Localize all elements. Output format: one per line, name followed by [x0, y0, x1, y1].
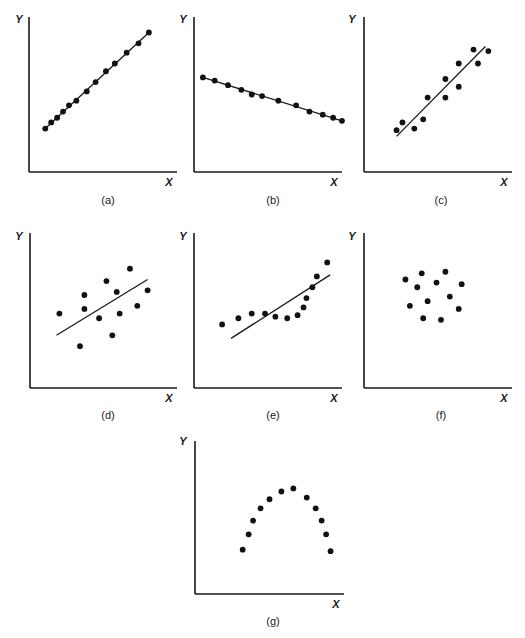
data-point: [279, 489, 285, 495]
data-point: [407, 303, 413, 309]
data-point: [42, 126, 48, 132]
x-axis-label: X: [499, 392, 508, 404]
data-point: [84, 89, 90, 95]
fit-line: [231, 275, 330, 339]
data-point: [93, 79, 99, 85]
data-point: [320, 112, 326, 118]
data-point: [117, 311, 123, 317]
data-point: [459, 281, 465, 287]
data-point: [411, 126, 417, 132]
data-point: [249, 311, 255, 317]
data-point: [250, 518, 256, 524]
data-point: [259, 93, 265, 99]
data-point: [66, 102, 72, 108]
data-point: [425, 95, 431, 101]
data-point: [400, 120, 406, 126]
data-point: [60, 109, 66, 115]
y-axis-label: Y: [179, 230, 188, 242]
panel-c: YX(c): [348, 13, 512, 206]
panel-d: YX(d): [15, 230, 177, 421]
data-point: [420, 116, 426, 122]
y-axis-label: Y: [179, 435, 188, 447]
data-point: [81, 306, 87, 312]
data-point: [136, 40, 142, 46]
data-point: [200, 75, 206, 81]
data-point: [394, 127, 400, 133]
panel-f: YX(f): [348, 230, 512, 421]
data-point: [146, 30, 152, 36]
data-point: [323, 531, 329, 537]
data-point: [307, 109, 313, 115]
data-point: [443, 269, 449, 275]
data-point: [134, 303, 140, 309]
data-point: [124, 50, 130, 56]
data-point: [112, 61, 118, 67]
y-axis-label: Y: [15, 13, 24, 25]
data-point: [403, 277, 409, 283]
panel-b: YX(b): [179, 13, 345, 206]
data-point: [114, 289, 120, 295]
data-point: [275, 98, 281, 104]
data-point: [475, 61, 481, 67]
fit-line: [397, 46, 486, 136]
data-point: [267, 496, 273, 502]
data-point: [104, 278, 110, 284]
x-axis-label: X: [164, 392, 173, 404]
scatter-figure: YX(a)YX(b)YX(c)YX(d)YX(e)YX(f)YX(g): [0, 0, 525, 638]
data-point: [81, 292, 87, 298]
panel-g: YX(g): [179, 435, 344, 627]
data-point: [443, 95, 449, 101]
data-point: [219, 322, 225, 328]
y-axis-label: Y: [15, 230, 24, 242]
data-point: [225, 82, 231, 88]
data-point: [301, 305, 307, 311]
data-point: [313, 505, 319, 511]
data-point: [456, 84, 462, 90]
x-axis-label: X: [499, 176, 508, 188]
data-point: [73, 98, 79, 104]
data-point: [314, 274, 320, 280]
data-point: [262, 311, 268, 317]
data-point: [96, 315, 102, 321]
x-axis-label: X: [329, 392, 338, 404]
panel-label: (f): [436, 409, 446, 421]
data-point: [485, 48, 491, 54]
panel-label: (e): [266, 409, 279, 421]
data-point: [438, 317, 444, 323]
y-axis-label: Y: [179, 13, 188, 25]
panel-e: YX(e): [179, 230, 342, 421]
data-point: [328, 548, 334, 554]
data-point: [54, 115, 60, 121]
data-point: [57, 311, 63, 317]
data-point: [48, 120, 54, 126]
y-axis-label: Y: [348, 13, 357, 25]
data-point: [330, 115, 336, 121]
data-point: [109, 332, 115, 338]
data-point: [414, 284, 420, 290]
data-point: [238, 87, 244, 93]
data-point: [273, 314, 279, 320]
data-point: [419, 270, 425, 276]
data-point: [425, 298, 431, 304]
data-point: [103, 68, 109, 74]
data-point: [471, 47, 477, 53]
data-point: [456, 61, 462, 67]
panel-label: (b): [266, 194, 279, 206]
data-point: [304, 495, 310, 501]
data-point: [339, 118, 345, 124]
data-point: [77, 343, 83, 349]
data-point: [246, 531, 252, 537]
x-axis-label: X: [164, 176, 173, 188]
panel-label: (g): [266, 615, 279, 627]
data-point: [127, 266, 133, 272]
panel-label: (c): [435, 194, 448, 206]
data-point: [290, 486, 296, 492]
data-point: [434, 280, 440, 286]
fit-line: [56, 280, 147, 336]
data-point: [236, 315, 242, 321]
x-axis-label: X: [329, 176, 338, 188]
data-point: [443, 76, 449, 82]
data-point: [324, 260, 330, 266]
data-point: [310, 284, 316, 290]
data-point: [284, 315, 290, 321]
